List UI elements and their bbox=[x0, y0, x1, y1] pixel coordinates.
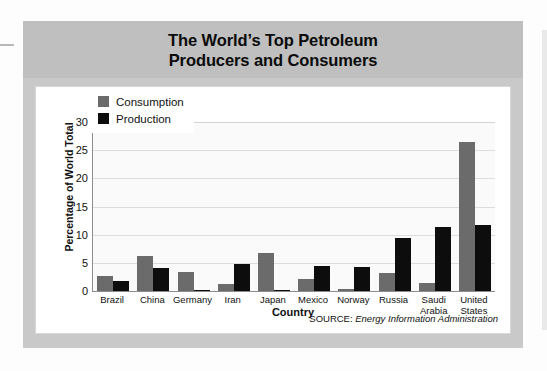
x-axis-tick-line: Iran bbox=[213, 294, 253, 305]
source-label: SOURCE: bbox=[309, 313, 352, 324]
bar-production-mexico bbox=[314, 266, 330, 291]
chart-title-line-1: The World’s Top Petroleum bbox=[168, 31, 378, 49]
source-note: SOURCE: Energy Information Administratio… bbox=[309, 313, 498, 324]
bar-group bbox=[415, 122, 455, 291]
bar-production-china bbox=[153, 268, 169, 291]
bar-group bbox=[133, 122, 173, 291]
y-axis-tick: 10 bbox=[60, 229, 88, 241]
bar-production-russia bbox=[395, 238, 411, 291]
y-axis-tick: 5 bbox=[60, 257, 88, 269]
bar-group bbox=[374, 122, 414, 291]
x-axis-tick-line: Brazil bbox=[92, 294, 132, 305]
legend-label: Production bbox=[116, 113, 171, 125]
bar-group bbox=[294, 122, 334, 291]
chart-legend: ConsumptionProduction bbox=[92, 87, 194, 133]
bar-consumption-norway bbox=[338, 289, 354, 291]
page-title: The World’s Top Petroleum Producers and … bbox=[168, 30, 378, 70]
chart-card: Percentage of World Total 302520151050 C… bbox=[36, 87, 510, 333]
legend-label: Consumption bbox=[116, 96, 184, 108]
chart-title-band: The World’s Top Petroleum Producers and … bbox=[23, 21, 523, 78]
bar-consumption-mexico bbox=[298, 279, 314, 291]
bar-group bbox=[214, 122, 254, 291]
bar-consumption-saudi-arabia bbox=[419, 283, 435, 291]
legend-swatch-icon bbox=[98, 113, 109, 124]
bar-production-united-states bbox=[475, 225, 491, 291]
bar-consumption-germany bbox=[178, 272, 194, 291]
x-axis-tick-line: Saudi bbox=[414, 294, 454, 305]
y-axis-tick: 15 bbox=[60, 201, 88, 213]
y-axis-tick-labels: 302520151050 bbox=[60, 87, 88, 333]
chart-figure: The World’s Top Petroleum Producers and … bbox=[23, 21, 523, 348]
bar-production-germany bbox=[194, 290, 210, 291]
source-value: Energy Information Administration bbox=[355, 313, 498, 324]
x-axis-tick-line: China bbox=[132, 294, 172, 305]
bar-consumption-japan bbox=[258, 253, 274, 291]
bar-production-saudi-arabia bbox=[435, 227, 451, 291]
bar-consumption-china bbox=[137, 256, 153, 291]
plot-area bbox=[92, 122, 495, 292]
x-axis-tick-line: Germany bbox=[172, 294, 212, 305]
chart-title-line-2: Producers and Consumers bbox=[169, 51, 378, 69]
bar-consumption-russia bbox=[379, 273, 395, 291]
y-axis-tick: 25 bbox=[60, 144, 88, 156]
bar-production-brazil bbox=[113, 281, 129, 291]
bar-group bbox=[173, 122, 213, 291]
x-axis-tick-line: Russia bbox=[373, 294, 413, 305]
legend-swatch-icon bbox=[98, 96, 109, 107]
bar-group bbox=[93, 122, 133, 291]
bar-consumption-brazil bbox=[97, 276, 113, 291]
bar-production-iran bbox=[234, 264, 250, 291]
bar-production-norway bbox=[354, 267, 370, 291]
plot-wrapper: Percentage of World Total 302520151050 C… bbox=[36, 87, 510, 333]
x-axis-tick-line: United bbox=[454, 294, 494, 305]
bar-group bbox=[455, 122, 495, 291]
x-axis-tick-line: Norway bbox=[333, 294, 373, 305]
y-axis-tick: 30 bbox=[60, 116, 88, 128]
bar-consumption-united-states bbox=[459, 142, 475, 291]
page-background: The World’s Top Petroleum Producers and … bbox=[0, 0, 547, 371]
bar-production-japan bbox=[274, 290, 290, 291]
x-axis-tick-line: Japan bbox=[253, 294, 293, 305]
scan-edge-right bbox=[542, 30, 547, 330]
x-axis-tick-line: Mexico bbox=[293, 294, 333, 305]
y-axis-tick: 20 bbox=[60, 172, 88, 184]
scan-mark-left bbox=[0, 44, 14, 46]
bar-group bbox=[254, 122, 294, 291]
bar-group bbox=[334, 122, 374, 291]
legend-item-consumption: Consumption bbox=[98, 93, 184, 110]
bar-consumption-iran bbox=[218, 284, 234, 291]
bar-series-container bbox=[93, 122, 495, 291]
legend-item-production: Production bbox=[98, 110, 184, 127]
y-axis-tick: 0 bbox=[60, 285, 88, 297]
